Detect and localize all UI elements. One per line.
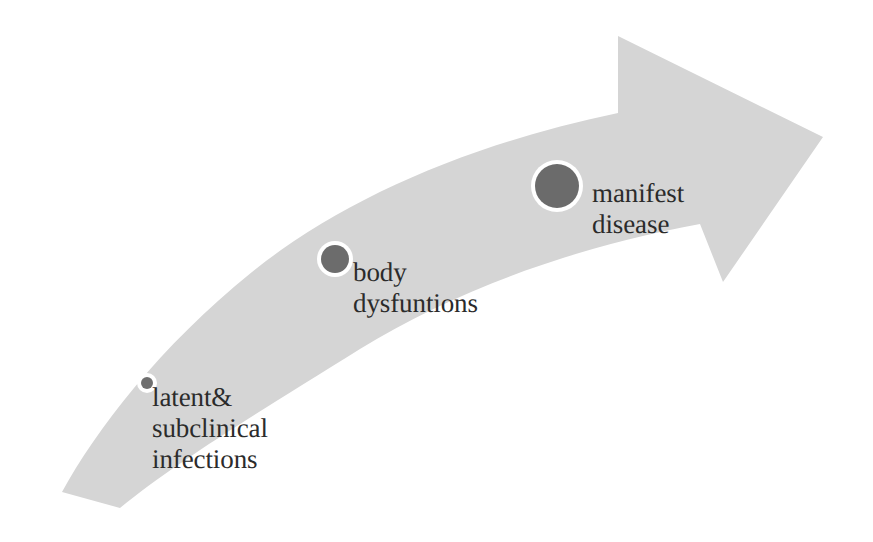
stage-marker-body-dysfunctions <box>321 245 349 273</box>
stage-marker-manifest-disease-group <box>531 160 583 212</box>
stage-label-manifest-disease: manifest disease <box>592 178 684 240</box>
stage-label-body-dysfunctions: body dysfuntions <box>353 257 478 319</box>
stage-marker-manifest-disease <box>535 164 579 208</box>
diagram-canvas: latent& subclinical infections body dysf… <box>0 0 873 542</box>
stage-marker-body-dysfunctions-group <box>317 241 353 277</box>
stage-label-latent: latent& subclinical infections <box>152 382 268 475</box>
